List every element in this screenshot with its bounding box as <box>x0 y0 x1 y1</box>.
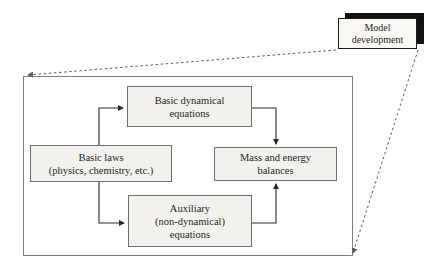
box-basic-laws-label: Basic laws (physics, chemistry, etc.) <box>49 151 154 177</box>
callout-zoom-line-left <box>28 50 336 75</box>
callout-model-development: Model development <box>338 18 417 49</box>
box-basic-laws: Basic laws (physics, chemistry, etc.) <box>30 145 172 182</box>
figure-canvas: Basic dynamical equations Basic laws (ph… <box>0 0 437 272</box>
box-basic-dynamical-equations: Basic dynamical equations <box>127 86 252 127</box>
box-mass-energy-label: Mass and energy balances <box>240 151 311 177</box>
callout-zoom-line-right <box>353 50 418 253</box>
box-basic-dynamical-label: Basic dynamical equations <box>155 94 225 120</box>
callout-label: Model development <box>352 22 404 46</box>
box-mass-and-energy-balances: Mass and energy balances <box>214 147 337 181</box>
box-auxiliary-label: Auxiliary (non-dynamical) equations <box>155 202 225 241</box>
box-auxiliary-equations: Auxiliary (non-dynamical) equations <box>128 195 252 247</box>
